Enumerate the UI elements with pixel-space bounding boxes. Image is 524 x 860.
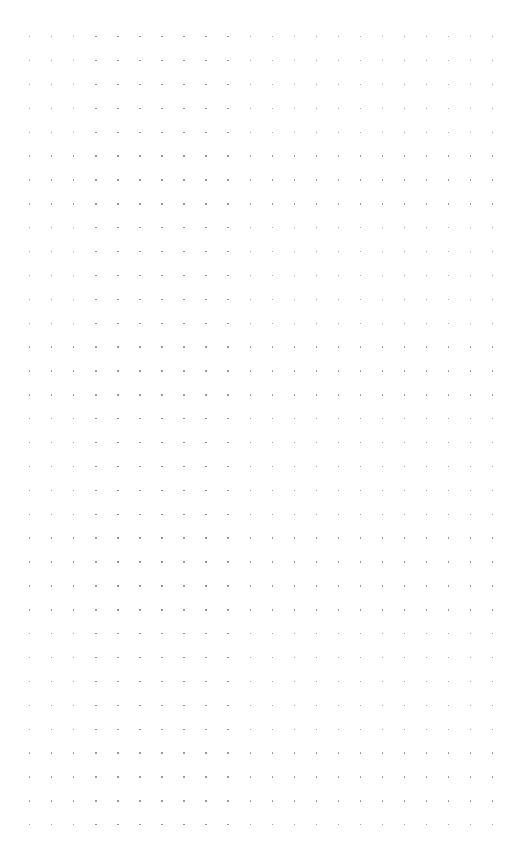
grid-dot	[29, 108, 30, 109]
grid-dot	[51, 394, 52, 395]
grid-dot	[338, 776, 339, 777]
grid-dot	[73, 561, 74, 562]
grid-dot	[250, 681, 251, 682]
grid-dot	[250, 490, 251, 491]
grid-dot	[205, 466, 206, 467]
grid-dot	[117, 585, 118, 586]
grid-dot	[73, 490, 74, 491]
grid-dot	[73, 585, 74, 586]
grid-dot	[117, 537, 118, 538]
grid-dot	[360, 36, 361, 37]
grid-dot	[117, 251, 118, 252]
grid-dot	[382, 370, 383, 371]
grid-dot	[95, 442, 96, 443]
grid-dot	[51, 561, 52, 562]
grid-dot	[360, 752, 361, 753]
grid-dot	[382, 824, 383, 825]
grid-dot	[183, 132, 184, 133]
grid-dot	[360, 251, 361, 252]
grid-dot	[426, 418, 427, 419]
grid-dot	[448, 370, 449, 371]
grid-dot	[250, 418, 251, 419]
grid-dot	[448, 203, 449, 204]
grid-dot	[448, 729, 449, 730]
grid-dot	[470, 657, 471, 658]
grid-dot	[29, 800, 30, 801]
grid-dot	[470, 466, 471, 467]
grid-dot	[51, 609, 52, 610]
grid-dot	[117, 60, 118, 61]
grid-dot	[492, 490, 493, 491]
grid-dot	[470, 609, 471, 610]
grid-dot	[272, 299, 273, 300]
grid-dot	[294, 633, 295, 634]
grid-dot	[250, 36, 251, 37]
grid-dot	[470, 752, 471, 753]
grid-dot	[294, 418, 295, 419]
grid-dot	[205, 155, 206, 156]
grid-dot	[95, 60, 96, 61]
grid-dot	[29, 705, 30, 706]
grid-dot	[29, 132, 30, 133]
grid-dot	[448, 585, 449, 586]
grid-dot	[316, 155, 317, 156]
grid-dot	[338, 418, 339, 419]
grid-dot	[227, 36, 228, 37]
grid-dot	[183, 752, 184, 753]
grid-dot	[360, 60, 361, 61]
grid-dot	[29, 442, 30, 443]
grid-dot	[426, 681, 427, 682]
grid-dot	[294, 275, 295, 276]
grid-dot	[183, 729, 184, 730]
grid-dot	[272, 800, 273, 801]
grid-dot	[205, 561, 206, 562]
grid-dot	[161, 251, 162, 252]
grid-dot	[492, 155, 493, 156]
grid-dot	[448, 609, 449, 610]
grid-dot	[139, 275, 140, 276]
grid-dot	[404, 824, 405, 825]
grid-dot	[492, 251, 493, 252]
grid-dot	[161, 657, 162, 658]
grid-dot	[404, 514, 405, 515]
grid-dot	[272, 681, 273, 682]
grid-dot	[95, 776, 96, 777]
grid-dot	[73, 60, 74, 61]
grid-dot	[338, 227, 339, 228]
grid-dot	[117, 84, 118, 85]
grid-dot	[183, 514, 184, 515]
grid-dot	[205, 84, 206, 85]
grid-dot	[29, 227, 30, 228]
grid-dot	[404, 418, 405, 419]
grid-dot	[448, 490, 449, 491]
grid-dot	[426, 60, 427, 61]
grid-dot	[73, 179, 74, 180]
grid-dot	[492, 275, 493, 276]
grid-dot	[51, 776, 52, 777]
grid-dot	[29, 36, 30, 37]
grid-dot	[360, 323, 361, 324]
grid-dot	[250, 729, 251, 730]
grid-dot	[73, 705, 74, 706]
grid-dot	[382, 609, 383, 610]
grid-dot	[250, 609, 251, 610]
grid-dot	[448, 657, 449, 658]
grid-dot	[29, 657, 30, 658]
grid-dot	[382, 227, 383, 228]
grid-dot	[316, 537, 317, 538]
dot-grid-canvas[interactable]	[0, 0, 524, 860]
grid-dot	[117, 705, 118, 706]
grid-dot	[73, 609, 74, 610]
grid-dot	[382, 155, 383, 156]
grid-dot	[205, 299, 206, 300]
grid-dot	[426, 323, 427, 324]
grid-dot	[117, 633, 118, 634]
grid-dot	[29, 251, 30, 252]
grid-dot	[95, 490, 96, 491]
grid-dot	[205, 60, 206, 61]
grid-dot	[161, 800, 162, 801]
grid-dot	[73, 227, 74, 228]
grid-dot	[73, 752, 74, 753]
grid-dot	[117, 299, 118, 300]
grid-dot	[183, 60, 184, 61]
